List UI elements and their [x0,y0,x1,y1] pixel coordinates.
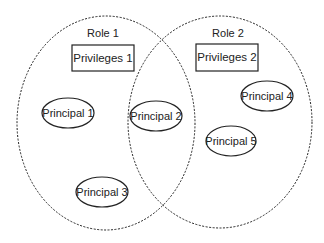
role-1-label: Role 1 [87,27,119,39]
role-2-label: Role 2 [212,27,244,39]
principal-4-label: Principal 4 [241,90,292,102]
privileges-1-label: Privileges 1 [73,52,132,64]
principal-3-label: Principal 3 [76,186,127,198]
principal-1-label: Principal 1 [42,107,93,119]
privileges-2-label: Privileges 2 [197,51,256,63]
role-venn-diagram: Role 1 Role 2 Privileges 1 Privileges 2 … [0,0,324,243]
principal-2-label: Principal 2 [130,110,181,122]
principal-5-label: Principal 5 [205,135,256,147]
